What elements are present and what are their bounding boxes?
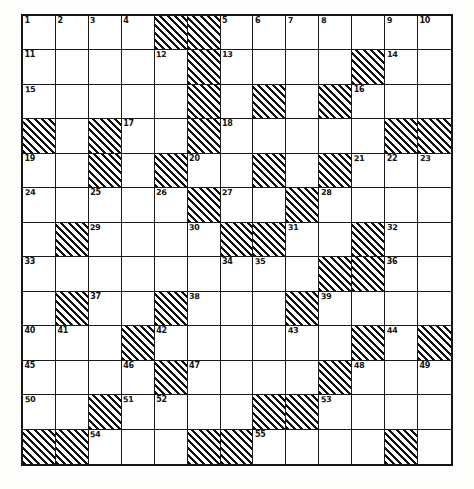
crossword-cell[interactable] bbox=[352, 188, 385, 222]
crossword-cell[interactable] bbox=[418, 85, 451, 119]
crossword-cell[interactable] bbox=[89, 257, 122, 291]
crossword-cell[interactable] bbox=[253, 361, 286, 395]
crossword-cell[interactable] bbox=[319, 430, 352, 464]
crossword-cell[interactable] bbox=[155, 85, 188, 119]
crossword-cell[interactable]: 1 bbox=[23, 16, 56, 50]
crossword-cell[interactable]: 28 bbox=[319, 188, 352, 222]
crossword-cell[interactable] bbox=[385, 85, 418, 119]
crossword-cell[interactable]: 16 bbox=[352, 85, 385, 119]
crossword-cell[interactable] bbox=[89, 361, 122, 395]
crossword-cell[interactable]: 45 bbox=[23, 361, 56, 395]
crossword-cell[interactable]: 38 bbox=[188, 292, 221, 326]
crossword-cell[interactable]: 55 bbox=[253, 430, 286, 464]
crossword-cell[interactable] bbox=[188, 326, 221, 360]
crossword-cell[interactable]: 17 bbox=[122, 119, 155, 153]
crossword-cell[interactable] bbox=[352, 395, 385, 429]
crossword-cell[interactable]: 36 bbox=[385, 257, 418, 291]
crossword-cell[interactable] bbox=[385, 395, 418, 429]
crossword-cell[interactable]: 3 bbox=[89, 16, 122, 50]
crossword-cell[interactable] bbox=[418, 292, 451, 326]
crossword-cell[interactable]: 31 bbox=[286, 223, 319, 257]
crossword-cell[interactable] bbox=[253, 119, 286, 153]
crossword-cell[interactable] bbox=[221, 395, 254, 429]
crossword-cell[interactable] bbox=[56, 50, 89, 84]
crossword-cell[interactable]: 52 bbox=[155, 395, 188, 429]
crossword-cell[interactable] bbox=[418, 395, 451, 429]
crossword-cell[interactable]: 53 bbox=[319, 395, 352, 429]
crossword-cell[interactable] bbox=[122, 188, 155, 222]
crossword-cell[interactable]: 44 bbox=[385, 326, 418, 360]
crossword-cell[interactable] bbox=[286, 430, 319, 464]
crossword-cell[interactable]: 4 bbox=[122, 16, 155, 50]
crossword-cell[interactable]: 11 bbox=[23, 50, 56, 84]
crossword-cell[interactable]: 25 bbox=[89, 188, 122, 222]
crossword-cell[interactable]: 40 bbox=[23, 326, 56, 360]
crossword-cell[interactable]: 33 bbox=[23, 257, 56, 291]
crossword-cell[interactable] bbox=[418, 188, 451, 222]
crossword-cell[interactable]: 18 bbox=[221, 119, 254, 153]
crossword-cell[interactable] bbox=[221, 326, 254, 360]
crossword-cell[interactable] bbox=[155, 223, 188, 257]
crossword-cell[interactable]: 26 bbox=[155, 188, 188, 222]
crossword-cell[interactable]: 15 bbox=[23, 85, 56, 119]
crossword-cell[interactable] bbox=[319, 223, 352, 257]
crossword-grid[interactable]: 1234567891011121314151617181920212223242… bbox=[21, 14, 453, 466]
crossword-cell[interactable] bbox=[188, 395, 221, 429]
crossword-cell[interactable] bbox=[286, 119, 319, 153]
crossword-cell[interactable] bbox=[56, 395, 89, 429]
crossword-cell[interactable] bbox=[352, 119, 385, 153]
crossword-cell[interactable] bbox=[56, 188, 89, 222]
crossword-cell[interactable]: 51 bbox=[122, 395, 155, 429]
crossword-cell[interactable] bbox=[155, 430, 188, 464]
crossword-cell[interactable]: 37 bbox=[89, 292, 122, 326]
crossword-cell[interactable] bbox=[352, 16, 385, 50]
crossword-cell[interactable] bbox=[253, 188, 286, 222]
crossword-cell[interactable]: 20 bbox=[188, 154, 221, 188]
crossword-cell[interactable]: 7 bbox=[286, 16, 319, 50]
crossword-cell[interactable] bbox=[286, 154, 319, 188]
crossword-cell[interactable] bbox=[155, 119, 188, 153]
crossword-cell[interactable] bbox=[286, 50, 319, 84]
crossword-cell[interactable] bbox=[418, 223, 451, 257]
crossword-cell[interactable] bbox=[56, 154, 89, 188]
crossword-cell[interactable]: 34 bbox=[221, 257, 254, 291]
crossword-cell[interactable] bbox=[56, 257, 89, 291]
crossword-cell[interactable]: 49 bbox=[418, 361, 451, 395]
crossword-cell[interactable]: 24 bbox=[23, 188, 56, 222]
crossword-cell[interactable]: 2 bbox=[56, 16, 89, 50]
crossword-cell[interactable]: 5 bbox=[221, 16, 254, 50]
crossword-cell[interactable] bbox=[188, 257, 221, 291]
crossword-cell[interactable]: 19 bbox=[23, 154, 56, 188]
crossword-cell[interactable]: 6 bbox=[253, 16, 286, 50]
crossword-cell[interactable]: 27 bbox=[221, 188, 254, 222]
crossword-cell[interactable]: 30 bbox=[188, 223, 221, 257]
crossword-cell[interactable] bbox=[418, 430, 451, 464]
crossword-cell[interactable] bbox=[122, 85, 155, 119]
crossword-cell[interactable]: 48 bbox=[352, 361, 385, 395]
crossword-cell[interactable]: 9 bbox=[385, 16, 418, 50]
crossword-cell[interactable] bbox=[155, 257, 188, 291]
crossword-cell[interactable] bbox=[319, 50, 352, 84]
crossword-cell[interactable] bbox=[122, 50, 155, 84]
crossword-cell[interactable] bbox=[89, 50, 122, 84]
crossword-cell[interactable] bbox=[352, 430, 385, 464]
crossword-cell[interactable] bbox=[122, 223, 155, 257]
crossword-cell[interactable] bbox=[418, 257, 451, 291]
crossword-cell[interactable] bbox=[122, 430, 155, 464]
crossword-cell[interactable] bbox=[253, 50, 286, 84]
crossword-cell[interactable]: 42 bbox=[155, 326, 188, 360]
crossword-cell[interactable]: 41 bbox=[56, 326, 89, 360]
crossword-cell[interactable]: 47 bbox=[188, 361, 221, 395]
crossword-cell[interactable] bbox=[385, 361, 418, 395]
crossword-cell[interactable] bbox=[352, 292, 385, 326]
crossword-cell[interactable] bbox=[23, 292, 56, 326]
crossword-cell[interactable]: 21 bbox=[352, 154, 385, 188]
crossword-cell[interactable]: 12 bbox=[155, 50, 188, 84]
crossword-cell[interactable] bbox=[56, 361, 89, 395]
crossword-cell[interactable] bbox=[385, 188, 418, 222]
crossword-cell[interactable] bbox=[253, 326, 286, 360]
crossword-cell[interactable]: 43 bbox=[286, 326, 319, 360]
crossword-cell[interactable]: 8 bbox=[319, 16, 352, 50]
crossword-cell[interactable] bbox=[221, 154, 254, 188]
crossword-cell[interactable]: 10 bbox=[418, 16, 451, 50]
